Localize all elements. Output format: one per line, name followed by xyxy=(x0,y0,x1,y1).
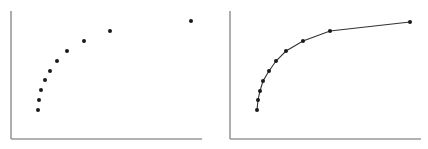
data-point xyxy=(39,88,43,92)
data-point xyxy=(408,20,412,24)
data-point xyxy=(37,98,41,102)
data-point xyxy=(189,19,193,23)
series-line xyxy=(257,22,410,110)
data-point xyxy=(108,29,112,33)
data-point xyxy=(43,78,47,82)
charts-canvas xyxy=(0,0,428,149)
data-point xyxy=(256,98,260,102)
data-point xyxy=(274,59,278,63)
data-point xyxy=(284,49,288,53)
data-point xyxy=(55,59,59,63)
data-point xyxy=(301,39,305,43)
data-point xyxy=(36,108,40,112)
data-point xyxy=(258,89,262,93)
data-point xyxy=(82,39,86,43)
scatter-chart xyxy=(11,11,202,139)
data-point xyxy=(65,49,69,53)
line-chart xyxy=(230,11,421,139)
data-point xyxy=(267,69,271,73)
data-point xyxy=(328,29,332,33)
data-point xyxy=(255,108,259,112)
data-point xyxy=(48,69,52,73)
data-point xyxy=(261,79,265,83)
